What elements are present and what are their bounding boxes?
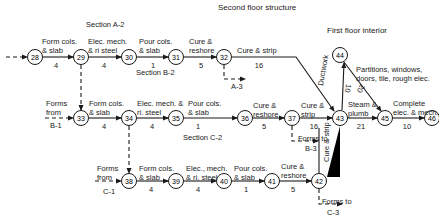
activity-39-40-duration: 4 xyxy=(196,186,200,195)
activity-32-43-duration: 16 xyxy=(255,62,263,71)
activity-40-41-duration: 1 xyxy=(244,186,248,195)
first-floor-interior-heading: First floor interior xyxy=(327,27,387,36)
svg-text:38: 38 xyxy=(125,178,133,185)
activity-32-43-label: Cure & strip xyxy=(237,47,277,56)
forms-to-b3-ref: B-3 xyxy=(305,145,317,154)
svg-text:43: 43 xyxy=(336,115,344,122)
activity-30-31-duration: 1 xyxy=(151,62,155,71)
activity-33-34-label: Form cols.& slab xyxy=(89,100,124,117)
node-43: 43 xyxy=(333,111,348,126)
node-38: 38 xyxy=(122,174,137,189)
svg-text:31: 31 xyxy=(172,54,180,61)
diagram-title: Second floor structure xyxy=(218,4,296,13)
forms-to-c3-label: Forms to xyxy=(322,198,352,207)
activity-45-46-duration: 10 xyxy=(403,123,411,132)
forms-to-c3-ref: C-3 xyxy=(327,209,339,218)
svg-text:42: 42 xyxy=(315,178,323,185)
activity-35-36-label: Pour cols.& slab xyxy=(188,100,221,117)
svg-text:36: 36 xyxy=(241,115,249,122)
activity-38-39-label: Form cols.& slab xyxy=(139,165,174,182)
activity-36-37-duration: 5 xyxy=(262,123,266,132)
activity-43-45-label: Steam &plumb xyxy=(348,101,377,118)
activity-34-35-label: Elec. mech. &ri. steel xyxy=(137,100,183,117)
svg-text:28: 28 xyxy=(31,54,39,61)
activity-44-45-label: Partitions, windows,doors, tile, rough e… xyxy=(356,66,430,83)
section-a2-label: Section A-2 xyxy=(86,21,124,30)
node-45: 45 xyxy=(378,111,393,126)
forms-from-c1-ref: C-1 xyxy=(103,188,115,197)
forms-from-b1-label: Formsfrom xyxy=(46,100,67,117)
node-32: 32 xyxy=(217,50,232,65)
activity-38-39-duration: 4 xyxy=(149,186,153,195)
svg-text:32: 32 xyxy=(220,54,228,61)
activity-33-34-duration: 4 xyxy=(102,123,106,132)
forms-from-c1-label: Formsfrom xyxy=(97,165,118,182)
node-44: 44 xyxy=(333,48,348,63)
to-a3-label: A-3 xyxy=(231,83,243,92)
activity-41-42-label: Cure &reshore xyxy=(281,163,306,180)
activity-36-37-label: Cure &reshore xyxy=(253,102,278,119)
activity-39-40-label: Elec., mech.& ri. steel xyxy=(186,165,227,182)
svg-text:29: 29 xyxy=(77,54,85,61)
activity-43-45-duration: 21 xyxy=(357,123,365,132)
svg-text:41: 41 xyxy=(268,178,276,185)
activity-42-43-label: Cure & strip xyxy=(323,122,332,162)
svg-text:45: 45 xyxy=(381,115,389,122)
activity-43-44-duration: 10 xyxy=(342,83,352,93)
activity-34-35-duration: 4 xyxy=(150,123,154,132)
activity-28-29-label: Form cols.& slab xyxy=(42,38,77,55)
activity-45-46-label: Completeelec. & mech. xyxy=(393,100,438,117)
activity-40-41-label: Pour cols.& slab xyxy=(234,165,267,182)
node-28: 28 xyxy=(28,50,43,65)
activity-29-30-duration: 4 xyxy=(102,62,106,71)
activity-41-42-duration: 5 xyxy=(291,186,295,195)
svg-text:37: 37 xyxy=(288,115,296,122)
activity-31-32-duration: 5 xyxy=(199,62,203,71)
node-33: 33 xyxy=(74,111,89,126)
activity-37-43-label: Cure &strip xyxy=(301,102,324,119)
node-36: 36 xyxy=(238,111,253,126)
activity-28-29-duration: 4 xyxy=(54,62,58,71)
section-c2-label: Section C-2 xyxy=(183,134,222,143)
activity-29-30-label: Elec. mech.& ri steel xyxy=(88,38,127,55)
activity-30-31-label: Pour cols.& slab xyxy=(139,38,172,55)
section-b2-label: Section B-2 xyxy=(136,69,175,78)
node-42: 42 xyxy=(312,174,327,189)
svg-text:34: 34 xyxy=(125,115,133,122)
activity-31-32-label: Cure &reshore xyxy=(189,38,214,55)
node-37: 37 xyxy=(285,111,300,126)
activity-35-36-duration: 1 xyxy=(196,123,200,132)
forms-from-b1-ref: B-1 xyxy=(50,122,62,131)
activity-37-43-duration: 16 xyxy=(310,123,318,132)
network-diagram: 28293031323334353637434445463839404142 S… xyxy=(0,0,439,222)
svg-text:33: 33 xyxy=(77,115,85,122)
svg-text:44: 44 xyxy=(336,52,344,59)
